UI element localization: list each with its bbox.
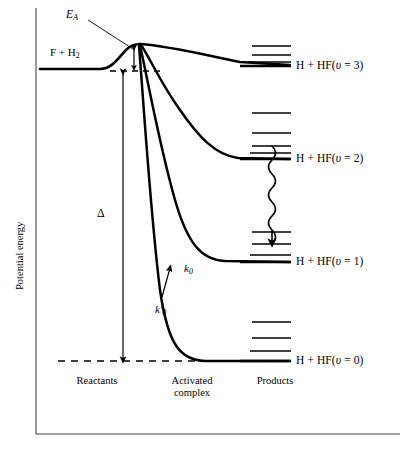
k0-prime-arrow <box>162 268 170 297</box>
reactant-state-main: F + H <box>50 46 76 58</box>
rate-constant-label: k0 <box>184 262 193 277</box>
level-label-v1-value: = 1) <box>341 255 363 267</box>
activation-energy-symbol: E <box>66 8 73 20</box>
activation-energy-leader <box>88 20 133 49</box>
activation-energy-label: EA <box>66 8 78 23</box>
rate-constant-subscript: 0 <box>189 267 193 276</box>
level-label-v2-prefix: H + HF( <box>296 152 336 164</box>
y-axis-label: Potential energy <box>14 222 26 290</box>
reactant-state-label: F + H2 <box>50 46 80 61</box>
level-label-v3-value: = 3) <box>341 59 363 71</box>
level-label-v3-prefix: H + HF( <box>296 59 336 71</box>
axis-label-reactants: Reactants <box>57 375 137 387</box>
emission-wavy-line <box>269 146 276 244</box>
axis-label-activated-complex: Activatedcomplex <box>152 375 232 399</box>
level-label-v1-prefix: H + HF( <box>296 255 336 267</box>
activated-complex-line2: complex <box>174 387 210 398</box>
level-label-v3: H + HF(υ = 3) <box>296 59 364 72</box>
activation-energy-subscript: A <box>73 13 78 22</box>
activated-complex-line1: Activated <box>172 375 213 386</box>
axis-label-products: Products <box>240 375 310 387</box>
level-label-v1: H + HF(υ = 1) <box>296 255 364 268</box>
level-label-v0-prefix: H + HF( <box>296 354 336 366</box>
reaction-path-v1 <box>140 46 290 262</box>
energy-release-label: Δ <box>97 207 105 220</box>
level-label-v0-value: = 0) <box>341 354 363 366</box>
potential-energy-diagram: Potential energy EA F + H2 Δ k0 k′0 H + … <box>0 0 403 449</box>
reactant-state-subscript: 2 <box>76 51 80 60</box>
rate-constant-primed-subscript: 0 <box>162 308 166 317</box>
rate-constant-primed-label: k′0 <box>155 303 166 318</box>
level-label-v2-value: = 2) <box>341 152 363 164</box>
level-label-v0: H + HF(υ = 0) <box>296 354 364 367</box>
level-label-v2: H + HF(υ = 2) <box>296 152 364 165</box>
